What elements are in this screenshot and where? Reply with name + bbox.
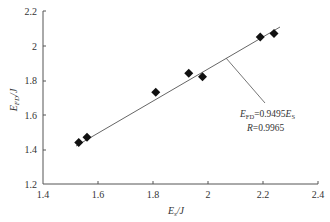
x-tick-label: 1.8	[147, 189, 160, 200]
y-tick-label: 1.2	[25, 179, 38, 190]
y-tick-label: 2	[32, 41, 37, 52]
scatter-chart: 1.2 1.4 1.6 1.8 2 2.2 1.4 1.6 1.8 2 2.2 …	[0, 0, 330, 222]
r-annotation: R=0.9965	[246, 123, 285, 133]
data-point-marker	[184, 69, 193, 78]
data-point-marker	[83, 133, 92, 142]
y-tick-label: 1.6	[25, 110, 38, 121]
x-tick-label: 2.4	[312, 189, 325, 200]
x-tick-label: 2	[206, 189, 211, 200]
equation-annotation: EFD=0.9495ES	[239, 109, 295, 120]
y-tick-labels: 1.2 1.4 1.6 1.8 2 2.2	[25, 6, 38, 190]
x-tick-label: 1.6	[92, 189, 105, 200]
y-tick-label: 2.2	[25, 6, 38, 17]
x-axis-label: Es/J	[167, 205, 185, 218]
data-point-marker	[74, 138, 83, 147]
x-tick-label: 1.4	[37, 189, 50, 200]
data-point-marker	[151, 88, 160, 97]
x-tick-label: 2.2	[257, 189, 270, 200]
data-point-marker	[270, 29, 279, 38]
annotation-leader-line	[226, 58, 265, 103]
y-tick-label: 1.8	[25, 75, 38, 86]
y-tick-label: 1.4	[25, 144, 38, 155]
y-axis-label: EFD/J	[8, 88, 21, 112]
x-tick-labels: 1.4 1.6 1.8 2 2.2 2.4	[37, 189, 325, 200]
